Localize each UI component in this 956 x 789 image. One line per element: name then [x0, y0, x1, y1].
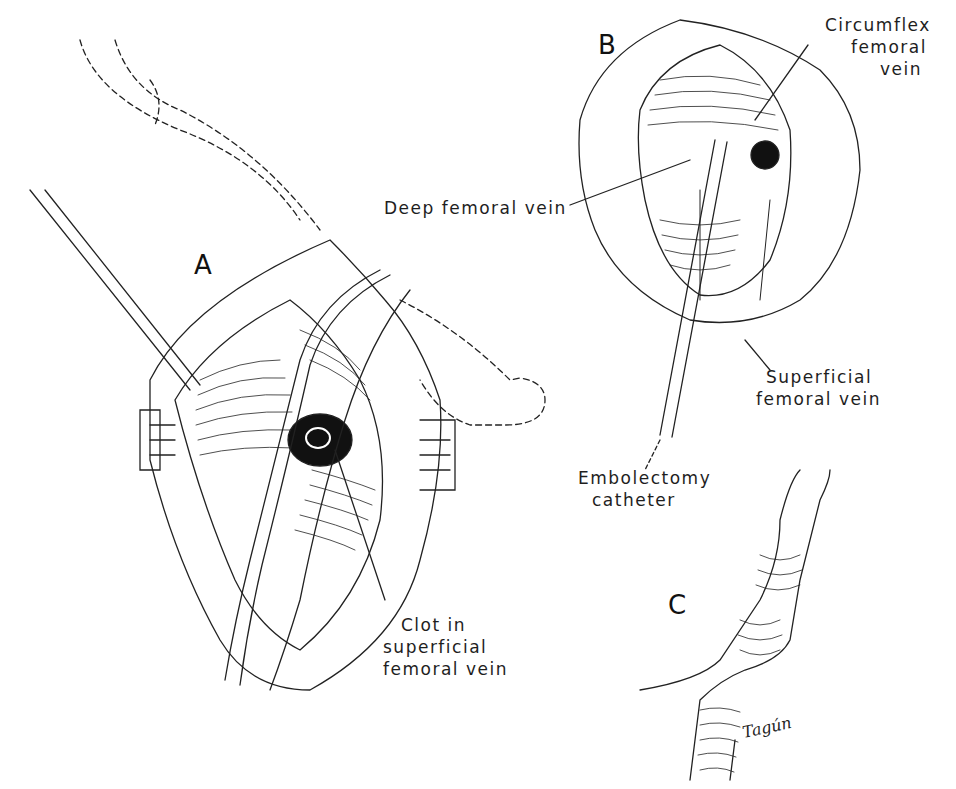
label-line: catheter [578, 489, 711, 511]
panel-letter-a: A [194, 250, 212, 280]
label-embolectomy-catheter: Embolectomy catheter [578, 467, 711, 511]
catheter-balloon [751, 141, 779, 169]
label-line: femoral vein [383, 658, 508, 680]
clot-dark [288, 414, 352, 466]
panel-letter-c: C [668, 590, 686, 620]
label-line: Superficial [766, 366, 881, 388]
label-superficial-femoral-vein-b: Superficial femoral vein [766, 366, 881, 410]
label-line: Embolectomy [578, 467, 711, 489]
label-line: femoral vein [756, 388, 881, 410]
panel-letter-b: B [598, 30, 616, 60]
label-line: Clot in [383, 614, 508, 636]
label-clot-superficial-femoral-vein: Clot in superficial femoral vein [383, 614, 508, 680]
embolectomy-catheter [660, 140, 715, 435]
label-line: femoral [825, 36, 931, 58]
label-deep-femoral-vein: Deep femoral vein [384, 197, 567, 219]
label-line: superficial [383, 636, 508, 658]
label-line: vein [825, 58, 931, 80]
label-circumflex-femoral-vein: Circumflex femoral vein [825, 14, 931, 80]
panel-c-vein [640, 470, 830, 780]
label-line: Circumflex [825, 14, 931, 36]
leg-outline-dashed [80, 40, 545, 425]
